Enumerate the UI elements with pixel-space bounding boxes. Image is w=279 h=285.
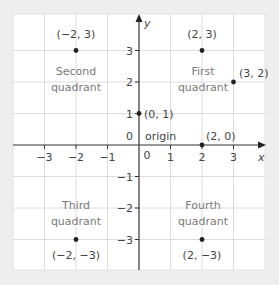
x-tick-label: 3: [230, 151, 237, 164]
x-tick-label: 0: [144, 149, 151, 162]
point-marker: [200, 237, 205, 242]
x-tick-label: 2: [199, 151, 206, 164]
fourth-quadrant-label-line1: Fourth: [185, 199, 220, 212]
point-marker: [74, 48, 79, 53]
y-tick-label: 3: [126, 45, 133, 58]
y-tick-label: −3: [117, 234, 133, 247]
fourth-quadrant-label-line2: quadrant: [178, 215, 229, 228]
second-quadrant-label-line2: quadrant: [51, 81, 102, 94]
point-label: (2, −3): [183, 249, 222, 262]
point-marker: [74, 237, 79, 242]
third-quadrant-label-line1: Third: [61, 199, 90, 212]
y-tick-label: 1: [126, 108, 133, 121]
x-tick-label: −1: [99, 151, 115, 164]
x-tick-label: −3: [36, 151, 52, 164]
point-marker: [231, 80, 236, 85]
point-marker: [200, 48, 205, 53]
y-tick-label: 0: [126, 130, 133, 143]
third-quadrant-label-line2: quadrant: [51, 215, 102, 228]
x-axis-label: x: [257, 151, 265, 164]
x-tick-label: −2: [68, 151, 84, 164]
point-label: (3, 2): [239, 67, 269, 80]
first-quadrant-label-line1: First: [191, 65, 215, 78]
origin-label: origin: [145, 130, 176, 143]
point-label: (2, 0): [206, 130, 236, 143]
second-quadrant-label-line1: Second: [56, 65, 96, 78]
point-marker: [200, 143, 205, 148]
coordinate-plane: −3 −2 −1 0 1 2 3 x 3 2 1 0 −1 −2 −3 y or…: [0, 0, 279, 285]
x-tick-label: 1: [167, 151, 174, 164]
point-label: (2, 3): [187, 28, 217, 41]
point-label: (−2, −3): [52, 249, 100, 262]
y-tick-label: 2: [126, 76, 133, 89]
y-axis-label: y: [143, 17, 151, 30]
point-label: (0, 1): [144, 108, 174, 121]
point-label: (−2, 3): [57, 28, 96, 41]
y-tick-label: −1: [117, 171, 133, 184]
point-marker: [137, 111, 142, 116]
first-quadrant-label-line2: quadrant: [178, 81, 229, 94]
coordinate-plane-figure: −3 −2 −1 0 1 2 3 x 3 2 1 0 −1 −2 −3 y or…: [0, 0, 279, 285]
y-tick-label: −2: [117, 202, 133, 215]
